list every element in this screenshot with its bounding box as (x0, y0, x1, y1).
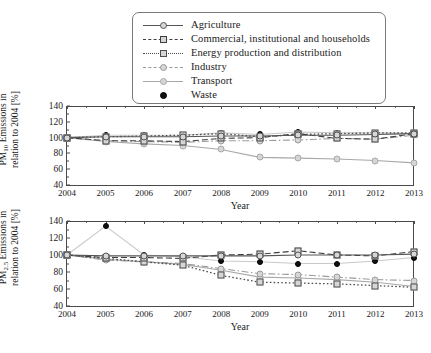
x-tick-label: 2009 (251, 306, 269, 319)
data-point-energy (256, 279, 263, 286)
data-point-energy (333, 280, 340, 287)
series-line-industry (67, 255, 414, 281)
data-point-agriculture (141, 133, 148, 140)
data-point-agriculture (295, 252, 302, 259)
x-tick-label: 2004 (58, 185, 76, 198)
plot-area-pm25: 4060801001201402004200520062007200820092… (66, 221, 414, 307)
data-point-agriculture (333, 252, 340, 259)
data-point-agriculture (333, 132, 340, 139)
data-point-agriculture (372, 252, 379, 259)
data-point-waste (257, 259, 263, 265)
legend-item-commercial[interactable]: Commercial, institutional and households (141, 32, 379, 46)
data-point-transport (218, 146, 225, 153)
marker-agriculture (160, 22, 167, 29)
legend-item-industry[interactable]: Industry (141, 60, 379, 74)
data-point-energy (295, 280, 302, 287)
x-tick-mark (414, 106, 415, 109)
y-axis-title-pm25: PM2.5 Emissions inrelation to 2004 [%] (0, 195, 21, 300)
x-tick-label: 2008 (212, 306, 230, 319)
x-axis-title-pm25: Year (66, 321, 414, 332)
data-point-agriculture (372, 131, 379, 138)
legend-label-transport: Transport (185, 75, 232, 87)
y-tick-label: 140 (49, 101, 67, 111)
legend-sample-energy (141, 46, 185, 60)
legend-item-transport[interactable]: Transport (141, 74, 379, 88)
x-tick-label: 2005 (97, 306, 115, 319)
data-point-agriculture (64, 252, 71, 259)
data-point-agriculture (411, 130, 418, 137)
plot-frame-top (67, 106, 414, 107)
series-lines-pm25 (67, 221, 414, 306)
legend-item-energy[interactable]: Energy production and distribution (141, 46, 379, 60)
data-point-transport (411, 159, 418, 166)
legend-item-agriculture[interactable]: Agriculture (141, 18, 379, 32)
data-point-agriculture (256, 133, 263, 140)
data-point-energy (218, 272, 225, 279)
x-tick-label: 2009 (251, 185, 269, 198)
panel-pm10: PM10 Emissions inrelation to 2004 [%] 40… (0, 100, 431, 210)
data-point-agriculture (64, 134, 71, 141)
data-point-agriculture (218, 133, 225, 140)
data-point-waste (295, 261, 301, 267)
data-point-industry (256, 270, 263, 277)
data-point-industry (295, 271, 302, 278)
marker-industry (160, 64, 167, 71)
y-tick-label: 60 (54, 164, 68, 174)
data-point-waste (334, 261, 340, 267)
series-lines-pm10 (67, 106, 414, 185)
data-point-agriculture (141, 252, 148, 259)
x-tick-label: 2008 (212, 185, 230, 198)
y-tick-label: 60 (54, 284, 68, 294)
marker-energy (160, 50, 167, 57)
legend-label-industry: Industry (185, 61, 227, 73)
y-tick-label: 80 (54, 267, 68, 277)
data-point-agriculture (102, 133, 109, 140)
data-point-energy (411, 284, 418, 291)
data-point-agriculture (295, 132, 302, 139)
x-tick-label: 2010 (289, 306, 307, 319)
series-line-transport (67, 138, 414, 163)
data-point-transport (333, 155, 340, 162)
x-tick-label: 2004 (58, 306, 76, 319)
x-tick-label: 2013 (405, 185, 423, 198)
figure-root: AgricultureCommercial, institutional and… (0, 0, 431, 353)
data-point-agriculture (256, 252, 263, 259)
data-point-agriculture (179, 133, 186, 140)
data-point-agriculture (102, 252, 109, 259)
x-tick-mark (414, 221, 415, 224)
legend-label-energy: Energy production and distribution (185, 47, 341, 59)
y-tick-label: 120 (49, 233, 67, 243)
x-tick-label: 2013 (405, 306, 423, 319)
chart-legend: AgricultureCommercial, institutional and… (132, 12, 386, 104)
data-point-transport (256, 154, 263, 161)
plot-frame-right (413, 106, 414, 185)
data-point-energy (179, 262, 186, 269)
legend-sample-agriculture (141, 18, 185, 32)
x-axis-title-pm10: Year (66, 200, 414, 211)
data-point-agriculture (411, 251, 418, 258)
x-tick-label: 2010 (289, 185, 307, 198)
x-tick-label: 2007 (174, 185, 192, 198)
x-tick-label: 2011 (328, 185, 346, 198)
x-tick-label: 2011 (328, 306, 346, 319)
x-tick-label: 2012 (366, 185, 384, 198)
plot-area-pm10: 4060801001201402004200520062007200820092… (66, 106, 414, 186)
data-point-transport (295, 155, 302, 162)
y-axis-title-pm10: PM10 Emissions inrelation to 2004 [%] (0, 77, 21, 182)
data-point-agriculture (179, 252, 186, 259)
marker-commercial (160, 36, 167, 43)
series-line-waste (67, 226, 414, 263)
y-tick-label: 80 (54, 148, 68, 158)
plot-frame-top (67, 221, 414, 222)
x-tick-label: 2005 (97, 185, 115, 198)
x-tick-label: 2006 (135, 185, 153, 198)
data-point-energy (372, 282, 379, 289)
data-point-waste (103, 223, 109, 229)
legend-sample-transport (141, 74, 185, 88)
legend-label-agriculture: Agriculture (185, 19, 241, 31)
x-tick-label: 2012 (366, 306, 384, 319)
legend-sample-commercial (141, 32, 185, 46)
panel-pm25: PM2.5 Emissions inrelation to 2004 [%] 4… (0, 215, 431, 350)
marker-waste (160, 92, 167, 99)
series-line-transport (67, 255, 414, 286)
